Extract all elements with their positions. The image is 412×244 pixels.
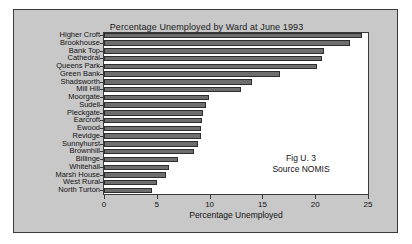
bar (104, 118, 202, 123)
x-axis-tick (262, 195, 263, 199)
bar (104, 165, 169, 170)
y-axis-tick (100, 35, 103, 36)
x-axis-title: Percentage Unemployed (103, 210, 369, 220)
bar (104, 102, 206, 107)
bar-row: Shadsworth (14, 79, 399, 86)
x-axis-tick (157, 195, 158, 199)
bar (104, 172, 166, 177)
y-axis-tick (100, 74, 103, 75)
y-axis-tick (100, 82, 103, 83)
chart-panel: Percentage Unemployed by Ward at June 19… (13, 9, 398, 233)
y-axis-tick (100, 175, 103, 176)
x-axis-tick-label: 0 (102, 200, 106, 209)
y-axis-tick (100, 120, 103, 121)
bar (104, 48, 324, 53)
bar-row: Earcroft (14, 117, 399, 124)
bar (104, 157, 178, 162)
bar (104, 180, 157, 185)
x-axis-tick (210, 195, 211, 199)
x-axis-tick-label: 15 (258, 200, 267, 209)
annotation-figure-number: Fig U. 3 (246, 153, 356, 164)
y-axis-tick (100, 43, 103, 44)
bar (104, 71, 280, 76)
y-axis-tick (100, 58, 103, 59)
x-axis-tick (104, 195, 105, 199)
bar (104, 40, 350, 45)
y-axis-tick (100, 51, 103, 52)
y-axis-tick (100, 151, 103, 152)
y-axis-tick (100, 190, 103, 191)
bar (104, 33, 362, 38)
x-axis-tick (315, 195, 316, 199)
bar (104, 64, 317, 69)
y-axis-tick (100, 182, 103, 183)
x-axis-tick-label: 20 (311, 200, 320, 209)
bar (104, 95, 209, 100)
bar-row: North Turton (14, 187, 399, 194)
y-axis-tick (100, 89, 103, 90)
y-axis-tick (100, 167, 103, 168)
y-axis-tick (100, 136, 103, 137)
x-axis-tick (368, 195, 369, 199)
bar (104, 126, 201, 131)
x-axis-tick-label: 10 (205, 200, 214, 209)
y-axis-tick (100, 66, 103, 67)
x-axis-tick-label: 5 (155, 200, 159, 209)
y-axis-tick (100, 105, 103, 106)
bar (104, 133, 201, 138)
bar (104, 149, 194, 154)
annotation-source: Source NOMIS (246, 164, 356, 175)
bar (104, 141, 198, 146)
bar-category-label: North Turton (58, 186, 100, 194)
x-axis-tick-label: 25 (364, 200, 373, 209)
bar-row: Pleckgate (14, 110, 399, 117)
bar (104, 56, 322, 61)
y-axis-tick (100, 113, 103, 114)
bar (104, 79, 252, 84)
bar (104, 87, 241, 92)
bar (104, 110, 203, 115)
bar-row: Moorgate (14, 94, 399, 101)
y-axis-tick (100, 97, 103, 98)
figure-annotation: Fig U. 3 Source NOMIS (246, 153, 356, 175)
y-axis-tick (100, 128, 103, 129)
y-axis-tick (100, 159, 103, 160)
y-axis-tick (100, 144, 103, 145)
bar (104, 188, 152, 193)
figure-root: Percentage Unemployed by Ward at June 19… (0, 0, 412, 244)
